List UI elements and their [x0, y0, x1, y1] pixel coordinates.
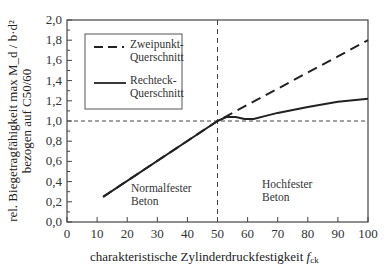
y-tick-label: 0,4 — [46, 174, 63, 189]
y-tick-label: 0,6 — [46, 153, 63, 168]
x-tick-label: 90 — [331, 226, 344, 241]
y-tick-label: 0,8 — [46, 133, 62, 148]
x-tick-label: 40 — [181, 226, 194, 241]
y-axis-title-line1: rel. Biegetragfähigkeit max M_d / b·d² — [5, 20, 20, 222]
y-tick-label: 0,2 — [46, 194, 62, 209]
y-tick-label: 0,0 — [46, 214, 62, 229]
x-tick-label: 60 — [241, 226, 254, 241]
y-tick-label: 1,0 — [46, 113, 62, 128]
x-tick-label: 10 — [91, 226, 104, 241]
x-tick-label: 20 — [121, 226, 134, 241]
legend: Zweipunkt- Querschnitt Rechteck- Quersch… — [85, 34, 184, 109]
annotation-high-strength-concrete-line1: Hochfester — [262, 178, 313, 190]
annotation-normal-concrete-line1: Normalfester — [131, 182, 192, 194]
y-tick-label: 1,6 — [46, 52, 63, 67]
y-axis-title-line2: bezogen auf C50/60 — [19, 69, 34, 174]
chart: 01020304050607080901000,00,20,40,60,81,0… — [0, 0, 391, 272]
x-tick-label: 0 — [64, 226, 71, 241]
x-tick-label: 70 — [271, 226, 284, 241]
legend-item-1-line2: Querschnitt — [130, 51, 184, 63]
legend-item-2-line2: Querschnitt — [130, 87, 184, 99]
annotation-high-strength-concrete-line2: Beton — [262, 191, 290, 203]
x-tick-label: 80 — [301, 226, 314, 241]
y-tick-label: 1,8 — [46, 32, 62, 47]
y-tick-label: 1,4 — [46, 73, 63, 88]
y-tick-label: 1,2 — [46, 93, 62, 108]
annotation-normal-concrete-line2: Beton — [131, 195, 159, 207]
legend-item-1-line1: Zweipunkt- — [130, 38, 184, 51]
x-tick-label: 50 — [211, 226, 224, 241]
x-axis-title: charakteristische Zylinderdruckfestigkei… — [90, 249, 319, 265]
x-tick-label: 100 — [358, 226, 378, 241]
y-tick-label: 2,0 — [46, 12, 62, 27]
legend-item-2-line1: Rechteck- — [130, 74, 177, 86]
x-tick-label: 30 — [151, 226, 164, 241]
